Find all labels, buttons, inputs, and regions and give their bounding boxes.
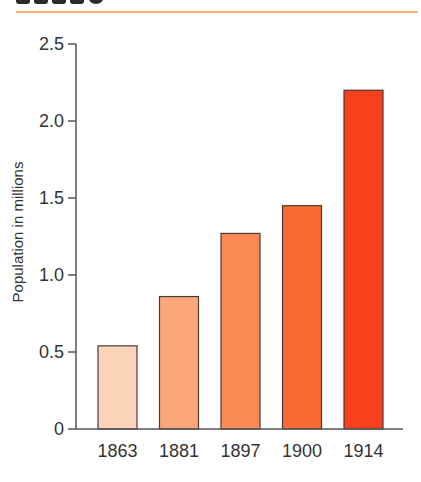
y-tick-label: 0.5	[39, 342, 64, 362]
y-tick-label: 0	[54, 419, 64, 439]
x-tick-label: 1900	[282, 441, 322, 461]
x-tick-label: 1914	[343, 441, 383, 461]
x-tick-label: 1897	[220, 441, 260, 461]
x-axis: 18631881189719001914	[76, 429, 403, 461]
y-tick-label: 2.0	[39, 111, 64, 131]
y-axis-title: Population in millions	[9, 162, 26, 303]
y-tick-label: 1.0	[39, 265, 64, 285]
x-tick-label: 1881	[159, 441, 199, 461]
y-tick-label: 2.5	[39, 34, 64, 54]
bars	[98, 90, 383, 429]
bar-1914	[344, 90, 383, 429]
bar-1897	[221, 233, 260, 429]
y-tick-label: 1.5	[39, 188, 64, 208]
bar-1863	[98, 346, 137, 429]
bar-1881	[160, 297, 199, 429]
bar-chart: 00.51.01.52.02.5 18631881189719001914 Po…	[0, 0, 421, 482]
bar-1900	[283, 206, 322, 429]
x-tick-label: 1863	[97, 441, 137, 461]
y-axis: 00.51.01.52.02.5	[39, 34, 76, 439]
